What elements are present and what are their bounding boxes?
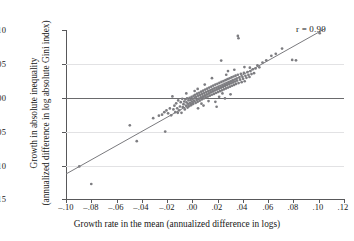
data-point — [281, 47, 284, 50]
data-point — [185, 92, 188, 95]
data-point — [202, 104, 205, 107]
x-tick-mark — [218, 199, 219, 203]
data-point — [258, 66, 261, 69]
scatter-plot-svg — [66, 30, 344, 199]
data-point — [128, 124, 131, 127]
y-axis-title-line2: (annualized difference in log absolute G… — [40, 3, 52, 223]
scatter-chart-figure: .10 .05 .00 –.05 –.10 –.15 –.10 –.08 –.0… — [0, 0, 354, 241]
data-point — [246, 71, 249, 74]
data-point — [261, 61, 264, 64]
x-tick-mark — [192, 199, 193, 203]
x-tick-label: .12 — [323, 203, 354, 212]
data-point — [240, 72, 243, 75]
data-point — [243, 72, 246, 75]
data-point — [182, 106, 185, 109]
data-point — [291, 59, 294, 62]
data-point — [90, 183, 93, 186]
correlation-annotation: r = 0.90 — [296, 25, 326, 34]
data-point — [158, 114, 161, 117]
data-point — [172, 108, 175, 111]
data-point — [193, 90, 196, 93]
data-point — [235, 83, 238, 86]
data-point — [224, 97, 227, 100]
data-point — [183, 108, 186, 111]
data-point — [240, 81, 243, 84]
x-tick-mark — [117, 199, 118, 203]
data-point — [295, 59, 298, 62]
y-axis-title-line1: Growth in absolute inequality — [28, 3, 40, 223]
y-tick-label: –.10 — [0, 162, 6, 171]
data-point — [237, 35, 240, 38]
data-point — [135, 140, 138, 143]
data-point — [178, 109, 181, 112]
data-point — [197, 107, 200, 110]
data-point — [170, 114, 173, 117]
data-point — [237, 82, 240, 85]
data-point — [239, 78, 242, 81]
data-point — [152, 117, 155, 120]
data-point — [253, 72, 256, 75]
data-point — [176, 107, 179, 110]
data-point — [220, 59, 223, 62]
y-tick-label: .00 — [0, 94, 6, 103]
x-tick-mark — [319, 199, 320, 203]
x-tick-mark — [293, 199, 294, 203]
data-point — [177, 99, 180, 102]
data-point — [270, 54, 273, 57]
data-point — [265, 59, 268, 62]
data-point — [171, 95, 174, 98]
data-point — [214, 100, 217, 103]
data-point — [78, 165, 81, 168]
data-point — [254, 67, 257, 70]
y-axis-title: Growth in absolute inequality (annualize… — [28, 3, 52, 223]
data-point — [161, 113, 164, 116]
x-tick-mark — [268, 199, 269, 203]
data-point — [180, 111, 183, 114]
data-point — [175, 102, 178, 105]
data-point — [169, 107, 172, 110]
x-tick-mark — [91, 199, 92, 203]
data-point — [237, 73, 240, 76]
data-point — [215, 105, 218, 108]
x-axis-title: Growth rate in the mean (annualized diff… — [0, 219, 354, 230]
x-tick-mark — [243, 199, 244, 203]
data-point — [165, 109, 168, 112]
data-point — [211, 77, 214, 80]
data-point — [164, 130, 167, 133]
data-point — [229, 93, 232, 96]
x-axis-line — [66, 199, 345, 200]
x-tick-mark — [167, 199, 168, 203]
regression-fit-line — [66, 29, 325, 174]
data-point — [250, 73, 253, 76]
data-point — [251, 68, 254, 71]
data-point — [176, 111, 179, 114]
data-point — [181, 97, 184, 100]
data-point — [227, 70, 230, 73]
data-point — [167, 112, 170, 115]
data-point — [256, 64, 259, 67]
data-point — [233, 68, 236, 71]
plot-area — [66, 30, 344, 199]
data-point — [174, 111, 177, 114]
data-point — [200, 102, 203, 105]
y-tick-label: –.05 — [0, 128, 6, 137]
data-point — [207, 100, 210, 103]
data-point — [243, 66, 246, 69]
data-point — [173, 104, 176, 107]
data-point — [163, 111, 166, 114]
x-tick-mark — [66, 199, 67, 203]
data-point — [179, 105, 182, 108]
data-point — [249, 70, 252, 73]
x-tick-mark — [344, 199, 345, 203]
data-point — [237, 37, 240, 40]
data-point — [182, 103, 185, 106]
data-point — [196, 88, 199, 91]
data-point — [192, 103, 195, 106]
data-point — [179, 101, 182, 104]
data-point — [248, 76, 251, 79]
y-tick-label: .10 — [0, 26, 6, 35]
y-tick-label: –.15 — [0, 195, 6, 204]
data-point — [249, 66, 252, 69]
data-point — [245, 77, 248, 80]
data-points-group — [78, 32, 321, 185]
